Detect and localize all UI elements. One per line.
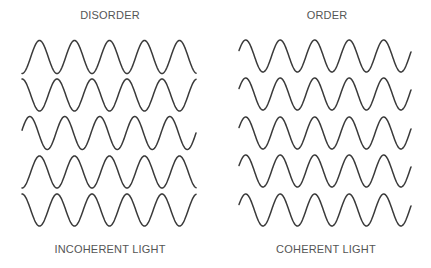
incoherent-wave-3 xyxy=(22,117,196,150)
incoherent-waves-group xyxy=(22,41,196,227)
coherent-wave-5 xyxy=(239,194,411,226)
incoherent-wave-1 xyxy=(22,41,196,74)
incoherent-light-caption: INCOHERENT LIGHT xyxy=(40,243,180,255)
coherent-wave-2 xyxy=(239,78,411,110)
incoherent-wave-4 xyxy=(22,156,196,188)
wave-diagram xyxy=(0,0,431,268)
coherent-waves-group xyxy=(239,40,411,226)
coherent-wave-3 xyxy=(239,117,411,149)
coherent-light-caption: COHERENT LIGHT xyxy=(256,243,396,255)
incoherent-wave-5 xyxy=(22,194,196,226)
incoherent-wave-2 xyxy=(22,79,196,111)
coherent-wave-4 xyxy=(239,155,411,187)
coherent-wave-1 xyxy=(239,40,411,72)
